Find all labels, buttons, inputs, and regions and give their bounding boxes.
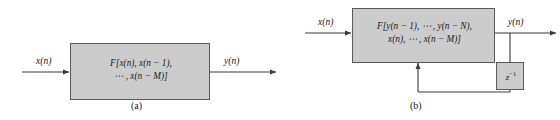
panel-b-output-label: y(n) xyxy=(508,18,523,28)
panel-b-block-line1: F[y(n − 1), ⋯ , y(n − N), xyxy=(353,20,496,33)
figure-container: F[x(n), x(n − 1), ⋯ , x(n − M)] x(n) y(n… xyxy=(0,0,560,120)
panel-a-caption: (a) xyxy=(131,101,142,112)
panel-a-block-line2: ⋯ , x(n − M)] xyxy=(71,70,211,83)
panel-b-system-block: F[y(n − 1), ⋯ , y(n − N), x(n), ⋯ , x(n … xyxy=(352,8,495,63)
panel-a-output-label: y(n) xyxy=(224,57,239,67)
panel-a-input-label: x(n) xyxy=(36,57,51,67)
panel-b-delay-exponent: −1 xyxy=(509,70,516,77)
panel-a-block-line1: F[x(n), x(n − 1), xyxy=(71,57,211,70)
panel-b-input-label: x(n) xyxy=(318,18,333,28)
panel-b-unit-delay-block: z−1 xyxy=(496,62,524,90)
panel-b-caption: (b) xyxy=(410,101,422,112)
panel-a-system-block: F[x(n), x(n − 1), ⋯ , x(n − M)] xyxy=(70,43,210,100)
panel-b-block-line2: x(n), ⋯ , x(n − M)] xyxy=(353,33,496,46)
panel-b-block-text: F[y(n − 1), ⋯ , y(n − N), x(n), ⋯ , x(n … xyxy=(353,20,496,45)
panel-a-block-text: F[x(n), x(n − 1), ⋯ , x(n − M)] xyxy=(71,57,211,82)
panel-b-delay-label: z−1 xyxy=(497,71,525,82)
